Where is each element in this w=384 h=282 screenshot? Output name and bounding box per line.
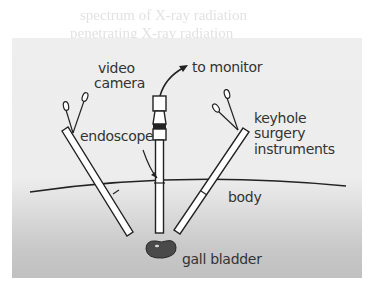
- label-to-monitor: to monitor: [192, 59, 262, 75]
- label-gall-bladder: gall bladder: [182, 251, 262, 267]
- label-video: video: [98, 60, 135, 76]
- label-camera: camera: [94, 75, 145, 91]
- arrow-head-icon: [179, 65, 188, 72]
- label-surgery: surgery: [254, 125, 305, 141]
- label-instruments: instruments: [254, 141, 335, 157]
- to-monitor-arrow: [160, 68, 183, 96]
- label-endoscope: endoscope: [80, 128, 153, 144]
- label-body: body: [228, 189, 261, 205]
- gall-bladder-shape: [146, 241, 176, 258]
- left-surgery-instrument: [62, 92, 133, 236]
- label-keyhole: keyhole: [254, 110, 306, 126]
- body-surface-line: [30, 179, 346, 192]
- right-surgery-instrument: [174, 89, 249, 234]
- endoscope: [143, 96, 166, 233]
